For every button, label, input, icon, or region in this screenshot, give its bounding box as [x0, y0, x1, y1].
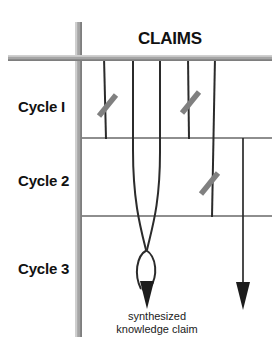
- claim-line-4: [188, 57, 189, 139]
- caption-line-2: knowledge claim: [102, 323, 212, 336]
- claim-line-2: [133, 57, 146, 250]
- synthesis-arrow-head: [140, 281, 154, 309]
- claim-line-1: [104, 57, 106, 139]
- slash-marker-2-icon: [182, 92, 199, 113]
- claims-axis-shadow: [8, 59, 272, 61]
- claims-axis: [8, 55, 272, 61]
- claims-axis-highlight: [8, 55, 272, 57]
- vertical-axis-shadow: [80, 22, 82, 337]
- vertical-axis-highlight: [75, 22, 77, 337]
- slash-marker-1-icon: [99, 95, 116, 116]
- claim-line-3: [147, 57, 160, 250]
- arrowheads: [140, 281, 250, 310]
- page-title: CLAIMS: [138, 29, 202, 49]
- claims-cycles-diagram: CLAIMS Cycle I Cycle 2 Cycle 3 synthesiz…: [0, 0, 280, 351]
- vertical-axis: [75, 22, 82, 337]
- synthesized-claim-caption: synthesized knowledge claim: [102, 310, 212, 335]
- label-cycle-3: Cycle 3: [18, 260, 69, 277]
- continuing-claim-arrow-head: [236, 282, 250, 310]
- caption-line-1: synthesized: [102, 310, 212, 323]
- label-cycle-1: Cycle I: [18, 98, 65, 115]
- claim-lines: [104, 57, 243, 288]
- label-cycle-2: Cycle 2: [18, 172, 69, 189]
- slash-marker-3-icon: [201, 173, 218, 194]
